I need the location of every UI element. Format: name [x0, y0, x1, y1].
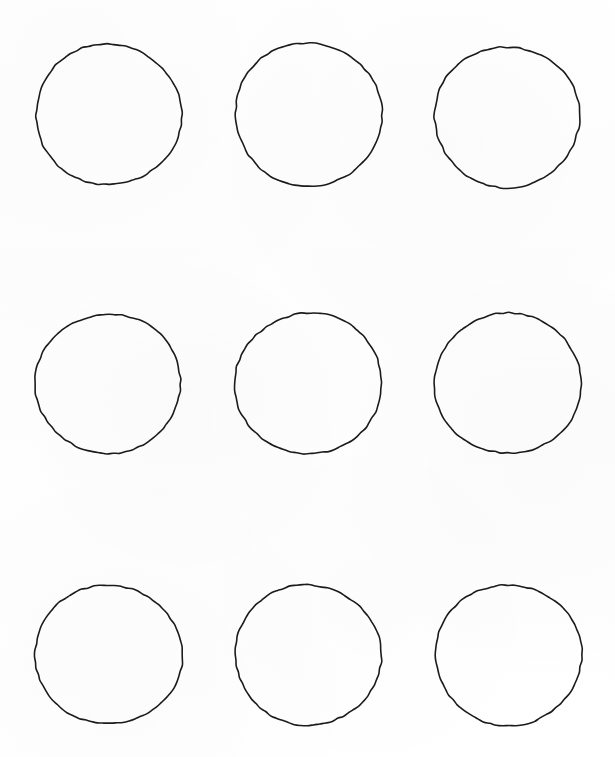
circle-outline	[233, 311, 382, 455]
circle-grid	[0, 0, 615, 757]
circle-outline-svg	[229, 37, 388, 192]
circle-outline	[434, 584, 582, 726]
page-canvas	[0, 0, 615, 757]
circle-outline-svg	[229, 307, 388, 460]
circle-cell-r1c3[interactable]	[428, 41, 586, 193]
circle-cell-r3c1[interactable]	[29, 579, 188, 730]
circle-cell-r2c1[interactable]	[29, 308, 187, 459]
circle-outline-svg	[429, 579, 588, 731]
circle-cell-r2c2[interactable]	[229, 307, 388, 460]
circle-cell-r2c3[interactable]	[429, 307, 587, 460]
circle-outline	[234, 41, 383, 187]
circle-outline	[34, 42, 184, 186]
circle-outline-svg	[229, 579, 387, 731]
circle-outline	[32, 583, 183, 725]
circle-cell-r1c1[interactable]	[30, 38, 187, 191]
circle-outline-svg	[30, 38, 187, 191]
circle-outline	[234, 583, 383, 726]
circle-cell-r3c2[interactable]	[229, 579, 387, 731]
circle-outline-svg	[29, 579, 188, 730]
circle-outline	[34, 312, 182, 454]
circle-outline	[433, 46, 581, 189]
circle-outline-svg	[428, 41, 586, 193]
circle-cell-r3c3[interactable]	[429, 579, 588, 731]
circle-outline-svg	[29, 308, 187, 459]
circle-outline	[433, 311, 582, 453]
circle-outline-svg	[429, 307, 587, 460]
circle-cell-r1c2[interactable]	[229, 37, 388, 192]
